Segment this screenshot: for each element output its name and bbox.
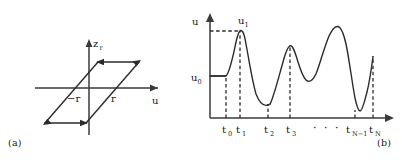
time-ticks-ellipsis: · · · [313, 122, 340, 135]
u1-label-subscript: 1 [245, 21, 249, 29]
time-tick-labels-group: t 0 t 1 t 2 t 3 · · · t N−1 t N [222, 122, 381, 138]
tick-label-t2-subscript: 2 [270, 130, 274, 138]
loop-group [43, 59, 141, 126]
tick-label-t0: t [222, 124, 226, 135]
u-axis-group [35, 85, 158, 92]
u-axis-arrowhead-icon [150, 85, 158, 92]
tick-label-t0-subscript: 0 [228, 130, 232, 138]
u-axis-label: u [152, 95, 159, 106]
z-axis-label-subscript: r [100, 44, 104, 52]
tick-label-t2: t [264, 124, 268, 135]
hysteresis-loop-svg: u z r −r r [0, 0, 200, 162]
loop-bottom-right-arrowhead-icon [80, 120, 88, 126]
tick-label-t1-subscript: 1 [242, 130, 246, 138]
panel-a-caption: (a) [8, 137, 22, 148]
panel-b-input-signal: u u 0 u 1 t 0 t 1 t 2 t 3 · · · t N−1 t [186, 0, 402, 162]
time-axis-arrowhead-icon [385, 114, 394, 122]
z-axis-arrowhead-icon [86, 39, 93, 47]
loop-top-left-arrowhead-icon [96, 59, 104, 65]
tick-label-t3-subscript: 3 [292, 130, 296, 138]
panel-a-hysteresis: u z r −r r (a) [0, 0, 200, 162]
input-signal-curve [210, 26, 373, 111]
positive-threshold-label: r [111, 93, 116, 104]
input-signal-svg: u u 0 u 1 t 0 t 1 t 2 t 3 · · · t N−1 t [186, 0, 402, 162]
amplitude-axis-label: u [192, 16, 199, 27]
u0-label-subscript: 0 [198, 78, 202, 86]
tick-label-tN: t [369, 124, 373, 135]
panel-a-labels: u z r −r r [67, 38, 159, 106]
z-axis-label: z [93, 38, 98, 49]
tick-label-tN-1: t [346, 124, 350, 135]
figure-container: u z r −r r (a) [0, 0, 402, 162]
panel-b-caption: (b) [377, 137, 391, 148]
tick-label-t3: t [286, 124, 290, 135]
negative-threshold-label: −r [67, 93, 80, 104]
loop-lower-left-arrowhead-icon [43, 119, 52, 125]
tick-label-t1: t [236, 124, 240, 135]
tick-label-tN-1-subscript: N−1 [352, 130, 368, 138]
amplitude-axis-arrowhead-icon [206, 13, 214, 22]
loop-upper-right-arrowhead-icon [132, 60, 141, 66]
